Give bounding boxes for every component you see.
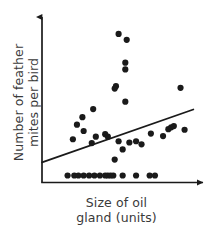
data-point bbox=[122, 66, 128, 72]
trend-line-segment bbox=[42, 109, 193, 162]
data-point bbox=[115, 31, 121, 37]
data-point bbox=[91, 172, 97, 178]
data-points bbox=[64, 31, 187, 179]
data-point bbox=[181, 127, 187, 133]
data-point bbox=[64, 172, 70, 178]
y-axis-label-line1: Number of feather bbox=[12, 15, 27, 191]
data-point bbox=[122, 60, 128, 66]
y-axis-label-line2: mites per bird bbox=[26, 15, 41, 191]
data-point bbox=[79, 114, 85, 120]
data-point bbox=[105, 134, 111, 140]
x-axis-label-line1: Size of oil bbox=[22, 196, 211, 211]
x-axis-label-line2: gland (units) bbox=[22, 211, 211, 226]
trend-line bbox=[42, 109, 193, 162]
data-point bbox=[74, 122, 80, 128]
data-point bbox=[90, 106, 96, 112]
data-point bbox=[89, 140, 95, 146]
data-point bbox=[126, 139, 132, 145]
data-point bbox=[115, 138, 121, 144]
data-point bbox=[81, 128, 87, 134]
data-point bbox=[133, 172, 139, 178]
data-point bbox=[147, 172, 153, 178]
data-point bbox=[152, 172, 158, 178]
axis-lines bbox=[41, 17, 203, 183]
data-point bbox=[93, 134, 99, 140]
data-point bbox=[124, 37, 130, 43]
data-point bbox=[86, 172, 92, 178]
data-point bbox=[122, 99, 128, 105]
data-point bbox=[110, 172, 116, 178]
data-point bbox=[75, 172, 81, 178]
data-point bbox=[120, 146, 126, 152]
data-point bbox=[81, 172, 87, 178]
data-point bbox=[171, 123, 177, 129]
data-point bbox=[160, 133, 166, 139]
data-point bbox=[177, 85, 183, 91]
data-point bbox=[112, 156, 118, 162]
data-point bbox=[148, 130, 154, 136]
data-point bbox=[70, 136, 76, 142]
x-axis-label: Size of oil gland (units) bbox=[0, 196, 211, 225]
scatter-plot-figure: Size of oil gland (units) Number of feat… bbox=[0, 0, 211, 237]
data-point bbox=[133, 138, 139, 144]
y-axis-label: Number of feather mites per bird bbox=[12, 15, 41, 191]
data-point bbox=[97, 172, 103, 178]
data-point bbox=[138, 141, 144, 147]
data-point bbox=[112, 86, 118, 92]
data-point bbox=[120, 172, 126, 178]
